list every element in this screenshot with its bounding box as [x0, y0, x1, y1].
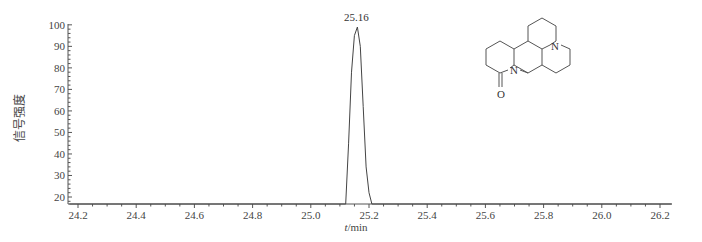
atom-label-o: O [497, 88, 505, 100]
x-tick-label: 24.2 [68, 209, 87, 221]
y-tick-label: 90 [54, 40, 66, 52]
x-tick-label: 24.4 [127, 209, 147, 221]
x-tick-label: 24.6 [185, 209, 205, 221]
x-axis-ticks: 24.224.424.624.825.025.225.425.625.826.0… [68, 204, 669, 221]
x-tick-label: 25.6 [476, 209, 496, 221]
chromatogram-trace [69, 27, 671, 204]
chromatogram-chart: 2030405060708090100 24.224.424.624.825.0… [0, 0, 702, 242]
x-tick-label: 26.2 [650, 209, 669, 221]
y-tick-label: 40 [54, 148, 66, 160]
y-axis-label: 信号强度 [12, 94, 27, 142]
x-tick-label: 25.2 [359, 209, 378, 221]
x-tick-label: 25.4 [418, 209, 438, 221]
x-tick-label: 26.0 [592, 209, 612, 221]
peak-label: 25.16 [344, 11, 369, 23]
axes [68, 24, 672, 204]
y-tick-label: 30 [54, 169, 66, 181]
chemical-structure-inset [486, 18, 570, 87]
atom-label-n-left: N [510, 64, 518, 76]
y-tick-label: 80 [54, 62, 66, 74]
x-axis-label: t/min [344, 221, 368, 233]
x-tick-label: 25.0 [301, 209, 321, 221]
y-axis-ticks: 2030405060708090100 [49, 19, 73, 203]
atom-label-n-right: N [551, 40, 559, 52]
y-tick-label: 70 [54, 83, 66, 95]
y-tick-label: 100 [49, 19, 66, 31]
x-tick-label: 24.8 [243, 209, 263, 221]
y-tick-label: 50 [54, 126, 66, 138]
y-tick-label: 20 [54, 191, 66, 203]
y-tick-label: 60 [54, 105, 66, 117]
x-tick-label: 25.8 [534, 209, 554, 221]
